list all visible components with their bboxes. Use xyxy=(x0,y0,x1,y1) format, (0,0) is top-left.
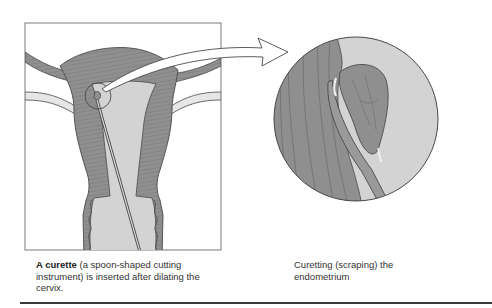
caption-left: A curette (a spoon-shaped cutting instru… xyxy=(36,259,211,294)
magnified-view xyxy=(260,30,438,205)
bottom-divider xyxy=(20,302,492,304)
caption-left-term: A curette xyxy=(36,259,77,270)
caption-right-text: Curetting (scraping) the endometrium xyxy=(294,259,393,282)
curette-tip xyxy=(94,91,101,99)
caption-right: Curetting (scraping) the endometrium xyxy=(294,259,434,282)
